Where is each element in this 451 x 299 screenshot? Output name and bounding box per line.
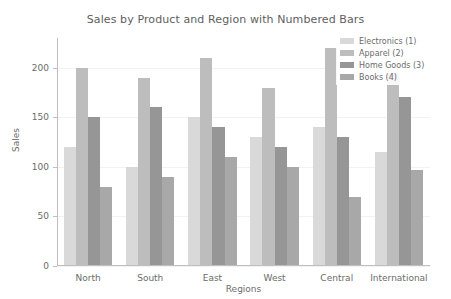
legend-item-label: Books (4) [359, 73, 397, 82]
y-tick-label: 0 [43, 261, 49, 271]
y-axis-label: Sales [11, 128, 21, 152]
chart-legend: Electronics (1)Apparel (2)Home Goods (3)… [336, 33, 429, 85]
x-tick-label: North [75, 273, 100, 283]
legend-item[interactable]: Apparel (2) [340, 48, 424, 58]
legend-swatch-icon [340, 50, 354, 56]
y-tick-label: 50 [38, 211, 49, 221]
legend-swatch-icon [340, 62, 354, 68]
chart-title: Sales by Product and Region with Numbere… [0, 13, 451, 26]
legend-item[interactable]: Books (4) [340, 72, 424, 82]
legend-swatch-icon [340, 74, 354, 80]
y-tick-label: 150 [32, 112, 49, 122]
x-tick-label: West [264, 273, 286, 283]
x-tick-label: Central [320, 273, 353, 283]
legend-item-label: Electronics (1) [359, 37, 416, 46]
x-tick-label: East [203, 273, 222, 283]
legend-item-label: Home Goods (3) [359, 61, 424, 70]
x-tick-label: South [137, 273, 163, 283]
legend-swatch-icon [340, 38, 354, 44]
y-tick-label: 100 [32, 162, 49, 172]
y-tick-mark [53, 266, 57, 267]
legend-item-label: Apparel (2) [359, 49, 404, 58]
x-tick-label: International [370, 273, 427, 283]
chart-figure: Sales by Product and Region with Numbere… [0, 0, 451, 299]
legend-item[interactable]: Electronics (1) [340, 36, 424, 46]
x-axis-label: Regions [57, 284, 430, 294]
legend-item[interactable]: Home Goods (3) [340, 60, 424, 70]
y-tick-label: 200 [32, 63, 49, 73]
gridline [57, 266, 430, 267]
